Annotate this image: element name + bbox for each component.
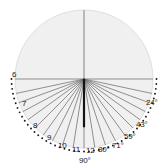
arc-tick-dot <box>54 145 56 147</box>
axis-label-6: 6 <box>12 71 16 79</box>
arc-tick-dot <box>21 116 23 118</box>
axis-label-24deg: 24° <box>146 99 158 107</box>
axis-label-7: 7 <box>22 100 26 108</box>
axis-label-11: 11 <box>72 146 80 154</box>
arc-tick-dot <box>24 120 26 122</box>
arc-tick-dot <box>19 111 21 113</box>
axis-label-90deg: 90° <box>79 157 91 165</box>
arc-tick-dot <box>155 88 157 90</box>
axis-label-8: 8 <box>33 122 37 130</box>
axis-label-12: 12 <box>86 147 95 155</box>
axis-label-71deg: 71° <box>112 142 124 150</box>
arc-tick-dot <box>83 151 85 153</box>
polar-fan-figure: 678910111280°71°59°43°24°90° <box>0 0 168 168</box>
arc-tick-dot <box>156 78 158 80</box>
arc-tick-dot <box>15 102 17 104</box>
arc-tick-dot <box>37 134 39 136</box>
arc-tick-dot <box>17 107 19 109</box>
axis-label-10: 10 <box>58 142 67 150</box>
axis-label-80deg: 80° <box>98 146 110 154</box>
axis-label-9: 9 <box>47 134 51 142</box>
arc-tick-dot <box>50 142 52 144</box>
axis-label-43deg: 43° <box>136 121 148 129</box>
arc-tick-dot <box>150 107 152 109</box>
arc-tick-dot <box>145 116 147 118</box>
axis-label-59deg: 59° <box>124 133 136 141</box>
arc-tick-dot <box>68 149 70 151</box>
arc-tick-dot <box>41 137 43 139</box>
arc-tick-dot <box>34 131 36 133</box>
arc-tick-dot <box>30 128 32 130</box>
fan-chart-canvas <box>0 0 168 168</box>
arc-tick-dot <box>11 83 13 85</box>
arc-tick-dot <box>12 93 14 95</box>
arc-tick-dot <box>27 124 29 126</box>
arc-tick-dot <box>13 98 15 100</box>
arc-tick-dot <box>147 111 149 113</box>
arc-tick-dot <box>154 93 156 95</box>
arc-tick-dot <box>155 83 157 85</box>
arc-tick-dot <box>11 88 13 90</box>
